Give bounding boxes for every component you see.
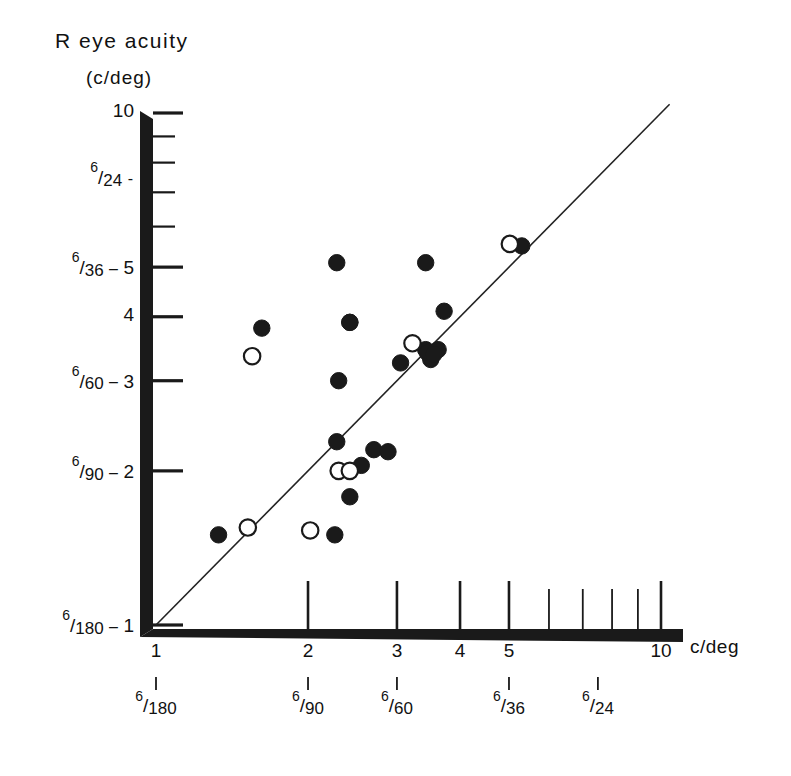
- x-axis-unit-label: c/deg: [690, 637, 739, 656]
- unity-line: [156, 104, 670, 625]
- data-point-open: [342, 463, 358, 479]
- data-point-filled: [329, 434, 345, 450]
- x-axis-snellen-label: 6/24: [553, 694, 643, 715]
- data-point-filled: [417, 255, 433, 271]
- data-point-filled: [210, 527, 226, 543]
- y-axis-unit-label: (c/deg): [86, 68, 152, 87]
- x-axis-tick-label: 10: [641, 641, 681, 660]
- data-point-open: [404, 335, 420, 351]
- data-point-filled: [329, 255, 345, 271]
- data-point-filled: [254, 320, 270, 336]
- data-point-open: [240, 519, 256, 535]
- y-axis-tick-label: 6/36 – 5: [72, 255, 134, 277]
- x-axis-tick-label: 1: [136, 641, 176, 660]
- data-point-filled: [436, 303, 452, 319]
- y-axis-tick-label: 10: [113, 101, 134, 120]
- y-axis-tick-label: 6/180 – 1: [62, 613, 134, 635]
- data-point-filled: [330, 373, 346, 389]
- y-axis-tick-label: 4: [123, 305, 134, 324]
- data-point-filled: [426, 346, 442, 362]
- y-axis-title: R eye acuity: [55, 30, 189, 51]
- x-axis-snellen-label: 6/36: [464, 694, 554, 715]
- x-axis-tick-label: 3: [377, 641, 417, 660]
- x-axis-snellen-label: 6/60: [352, 694, 442, 715]
- data-point-filled: [327, 527, 343, 543]
- y-axis-tick-label: 6/24 -: [90, 165, 134, 187]
- y-axis-tick-label: 6/60 – 3: [72, 369, 134, 391]
- data-point-open: [502, 236, 518, 252]
- x-axis-tick-label: 5: [489, 641, 529, 660]
- data-point-open: [244, 348, 260, 364]
- x-axis-tick-label: 2: [288, 641, 328, 660]
- data-point-filled: [342, 314, 358, 330]
- data-point-filled: [342, 489, 358, 505]
- data-point-open: [302, 522, 318, 538]
- x-axis-snellen-label: 6/90: [263, 694, 353, 715]
- data-point-filled: [392, 355, 408, 371]
- x-axis-tick-label: 4: [440, 641, 480, 660]
- x-axis-snellen-label: 6/180: [111, 694, 201, 715]
- y-axis-tick-label: 6/90 – 2: [72, 459, 134, 481]
- data-point-filled: [380, 444, 396, 460]
- y-axis-spine: [140, 111, 153, 637]
